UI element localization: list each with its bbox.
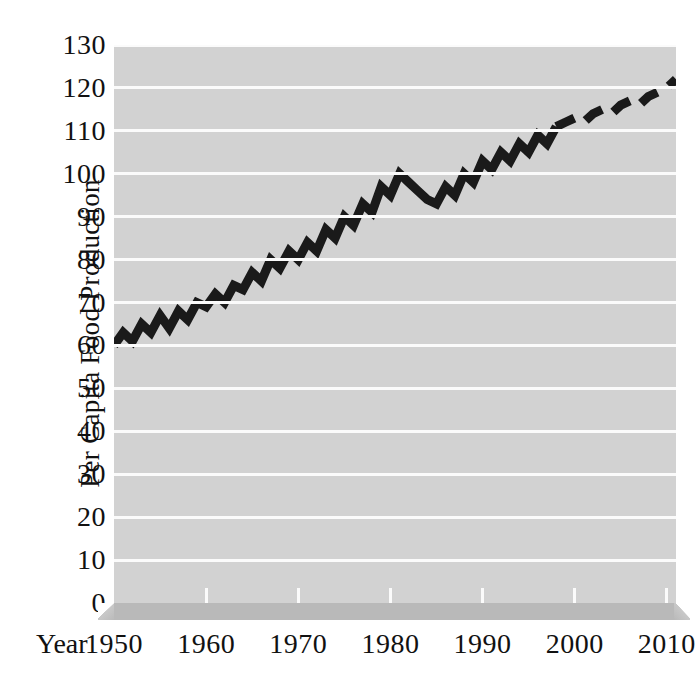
- gridline-y-30: [114, 473, 676, 476]
- gridline-y-80: [114, 258, 676, 261]
- y-tick-label-40: 40: [38, 417, 106, 445]
- axis-baseplate: [98, 603, 690, 620]
- x-tick-label-2000: 2000: [546, 628, 604, 660]
- y-tick-label-70: 70: [38, 289, 106, 317]
- y-tick-label-100: 100: [38, 160, 106, 188]
- x-axis-title: Year: [36, 628, 88, 660]
- gridline-y-50: [114, 387, 676, 390]
- y-tick-label-60: 60: [38, 331, 106, 359]
- x-tick-label-1990: 1990: [454, 628, 512, 660]
- tick-x-2010: [665, 588, 668, 603]
- y-tick-label-130: 130: [38, 31, 106, 59]
- y-tick-label-0: 0: [38, 589, 106, 617]
- y-tick-label-80: 80: [38, 246, 106, 274]
- gridline-y-120: [114, 86, 676, 89]
- y-tick-label-120: 120: [38, 74, 106, 102]
- gridline-y-110: [114, 129, 676, 132]
- y-tick-label-50: 50: [38, 374, 106, 402]
- plot-area: [114, 45, 676, 603]
- gridline-y-100: [114, 172, 676, 175]
- gridline-y-90: [114, 215, 676, 218]
- tick-x-2000: [573, 588, 576, 603]
- x-tick-label-1970: 1970: [269, 628, 327, 660]
- y-tick-label-10: 10: [38, 546, 106, 574]
- y-tick-label-90: 90: [38, 203, 106, 231]
- tick-x-1970: [297, 588, 300, 603]
- y-tick-label-20: 20: [38, 503, 106, 531]
- chart-figure: Per Capita Food Production 1301201101009…: [0, 0, 697, 679]
- gridline-y-70: [114, 301, 676, 304]
- y-tick-label-30: 30: [38, 460, 106, 488]
- x-tick-label-1980: 1980: [361, 628, 419, 660]
- gridline-y-40: [114, 430, 676, 433]
- baseplate-face: [114, 603, 676, 620]
- gridline-y-60: [114, 344, 676, 347]
- x-tick-label-2010: 2010: [638, 628, 696, 660]
- x-tick-label-1950: 1950: [85, 628, 143, 660]
- y-tick-label-110: 110: [38, 117, 106, 145]
- x-tick-label-1960: 1960: [177, 628, 235, 660]
- gridline-y-130: [114, 45, 676, 47]
- y-axis-tick-labels: 1301201101009080706050403020100: [38, 0, 106, 679]
- series-line-observed: [114, 127, 556, 346]
- tick-x-1990: [481, 588, 484, 603]
- x-axis-tick-labels: Year 1950196019701980199020002010: [0, 628, 697, 668]
- tick-x-1960: [205, 588, 208, 603]
- gridline-y-20: [114, 516, 676, 519]
- gridline-y-10: [114, 559, 676, 562]
- tick-x-1980: [389, 588, 392, 603]
- baseplate-right-bevel: [674, 603, 690, 620]
